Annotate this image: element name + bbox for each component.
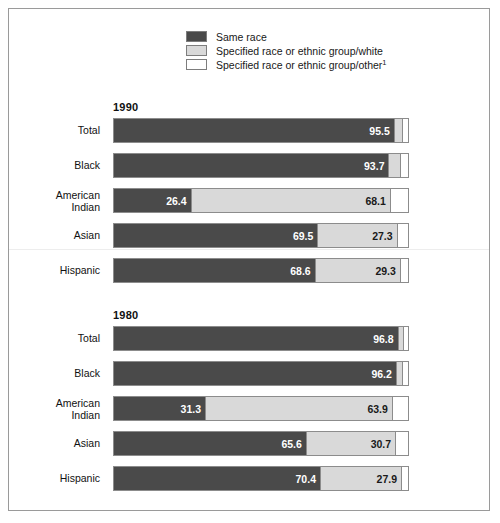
- bar-segment-value: 63.9: [367, 403, 392, 415]
- bar-row-label: AmericanIndian: [8, 396, 100, 421]
- bar-segment-group-other: [402, 119, 406, 142]
- bar-segment-same-race: 70.4: [114, 467, 321, 490]
- bar-row: Hispanic68.629.3: [9, 258, 490, 283]
- bar-segment-group-white: 63.9: [205, 397, 393, 420]
- bar-segment-value: 65.6: [281, 438, 306, 450]
- bar-track: 96.8: [113, 326, 409, 351]
- bar-row: Black96.2: [9, 361, 490, 386]
- bar-track: 68.629.3: [113, 258, 409, 283]
- bar-track: 26.468.1: [113, 188, 409, 213]
- bar-track: 70.427.9: [113, 466, 409, 491]
- bar-row-label: Total: [8, 118, 100, 136]
- bar-row-label: AmericanIndian: [8, 188, 100, 213]
- bar-segment-group-other: [400, 259, 406, 282]
- bar-segment-same-race: 69.5: [114, 224, 318, 247]
- bar-row: Asian69.527.3: [9, 223, 490, 248]
- bar-row: Hispanic70.427.9: [9, 466, 490, 491]
- footnote-marker: 1: [382, 57, 386, 66]
- bar-segment-value: 95.5: [369, 125, 394, 137]
- bar-segment-same-race: 96.2: [114, 362, 397, 385]
- legend-swatch-icon: [186, 45, 207, 56]
- chart-figure: Same raceSpecified race or ethnic group/…: [8, 8, 490, 511]
- bar-segment-group-white: 27.3: [317, 224, 397, 247]
- bar-segment-group-white: 68.1: [191, 189, 391, 212]
- bar-row-label: Total: [8, 326, 100, 344]
- bar-segment-value: 27.3: [372, 230, 397, 242]
- panel-rows: Total95.5Black93.7AmericanIndian26.468.1…: [9, 118, 490, 293]
- bar-segment-group-other: [403, 327, 406, 350]
- panel-title: 1990: [113, 101, 138, 113]
- bar-row-label: Hispanic: [8, 258, 100, 276]
- bar-track: 93.7: [113, 153, 409, 178]
- bar-segment-value: 93.7: [364, 160, 389, 172]
- bar-segment-group-other: [395, 432, 406, 455]
- bar-segment-value: 30.7: [371, 438, 396, 450]
- bar-segment-group-other: [400, 154, 406, 177]
- legend-item-label: Specified race or ethnic group/other1: [216, 59, 387, 71]
- bar-segment-same-race: 65.6: [114, 432, 307, 455]
- bar-segment-same-race: 31.3: [114, 397, 206, 420]
- bar-segment-value: 68.6: [290, 265, 315, 277]
- panel-rows: Total96.8Black96.2AmericanIndian31.363.9…: [9, 326, 490, 501]
- panel-title: 1980: [113, 309, 138, 321]
- bar-track: 96.2: [113, 361, 409, 386]
- bar-segment-value: 26.4: [166, 195, 191, 207]
- bar-track: 95.5: [113, 118, 409, 143]
- bar-row-label: Asian: [8, 223, 100, 241]
- bar-segment-value: 70.4: [296, 473, 321, 485]
- scan-artifact-line: [9, 249, 490, 250]
- bar-segment-group-other: [392, 397, 406, 420]
- bar-row: AmericanIndian26.468.1: [9, 188, 490, 213]
- bar-row: Asian65.630.7: [9, 431, 490, 456]
- bar-segment-group-white: 27.9: [320, 467, 402, 490]
- bar-row-label: Black: [8, 153, 100, 171]
- bar-segment-group-other: [390, 189, 406, 212]
- legend-swatch-icon: [186, 31, 207, 42]
- bar-row: Total96.8: [9, 326, 490, 351]
- legend-item-label: Specified race or ethnic group/white: [216, 45, 383, 57]
- bar-segment-same-race: 95.5: [114, 119, 395, 142]
- bar-segment-value: 29.3: [375, 265, 400, 277]
- legend-item: Specified race or ethnic group/white: [186, 44, 446, 57]
- bar-track: 65.630.7: [113, 431, 409, 456]
- chart-legend: Same raceSpecified race or ethnic group/…: [186, 30, 446, 72]
- legend-item: Same race: [186, 30, 446, 43]
- bar-row: Total95.5: [9, 118, 490, 143]
- bar-track: 69.527.3: [113, 223, 409, 248]
- bar-segment-same-race: 96.8: [114, 327, 399, 350]
- bar-row: Black93.7: [9, 153, 490, 178]
- bar-row: AmericanIndian31.363.9: [9, 396, 490, 421]
- bar-segment-value: 68.1: [365, 195, 390, 207]
- bar-row-label: Black: [8, 361, 100, 379]
- bar-segment-value: 27.9: [377, 473, 402, 485]
- bar-segment-value: 69.5: [293, 230, 318, 242]
- bar-segment-group-other: [397, 224, 406, 247]
- bar-segment-same-race: 93.7: [114, 154, 389, 177]
- legend-item: Specified race or ethnic group/other1: [186, 58, 446, 71]
- bar-segment-value: 96.8: [373, 333, 398, 345]
- bar-segment-group-white: 29.3: [315, 259, 401, 282]
- bar-segment-same-race: 26.4: [114, 189, 192, 212]
- bar-segment-group-other: [402, 362, 406, 385]
- legend-swatch-icon: [186, 59, 207, 70]
- bar-segment-value: 31.3: [181, 403, 206, 415]
- bar-segment-group-white: 30.7: [306, 432, 396, 455]
- bar-segment-same-race: 68.6: [114, 259, 316, 282]
- legend-item-label: Same race: [216, 31, 267, 43]
- bar-row-label: Asian: [8, 431, 100, 449]
- bar-track: 31.363.9: [113, 396, 409, 421]
- bar-segment-value: 96.2: [371, 368, 396, 380]
- bar-segment-group-other: [401, 467, 406, 490]
- bar-row-label: Hispanic: [8, 466, 100, 484]
